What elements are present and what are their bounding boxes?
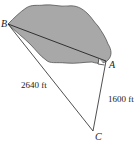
length-label-bc: 2640 ft [21,80,47,90]
lake-shape [8,5,111,64]
point-label-a: A [108,59,116,70]
lake-triangle-diagram: B A C 2640 ft 1600 ft [0,0,139,148]
segment-ac [93,61,106,131]
length-label-ac: 1600 ft [108,94,134,104]
point-label-b: B [1,18,7,29]
point-label-c: C [95,131,102,142]
